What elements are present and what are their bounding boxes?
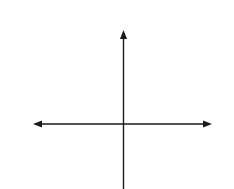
coordinate-plane [0, 0, 234, 189]
x-axis-right-arrow-icon [203, 121, 212, 128]
axes [33, 30, 212, 189]
x-axis-left-arrow-icon [33, 121, 42, 128]
y-axis-up-arrow-icon [120, 30, 127, 39]
